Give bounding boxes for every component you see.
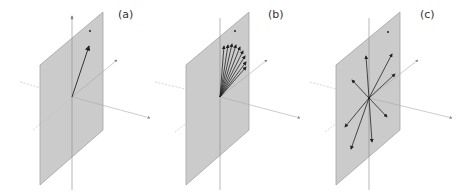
panel-label: (a) [118,8,133,21]
panel-label: (c) [420,8,435,21]
plane [40,12,103,185]
panel-a-diagram [0,0,156,196]
point-dot [89,30,91,32]
origin-dot [368,97,370,99]
panel-c-diagram [310,0,470,196]
plane [186,12,249,185]
panel-b-diagram [155,0,311,196]
panel-a: (a) [0,0,156,196]
panel-c: (c) [310,0,466,196]
point-dot [387,31,389,33]
panel-b: (b) [155,0,311,196]
point-dot [234,30,236,32]
panel-label: (b) [268,8,284,21]
